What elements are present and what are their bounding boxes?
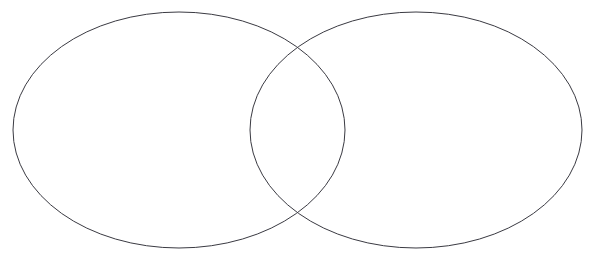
venn-diagram-canvas [0,0,593,259]
venn-diagram-svg [0,0,593,259]
diagram-background [0,0,593,259]
